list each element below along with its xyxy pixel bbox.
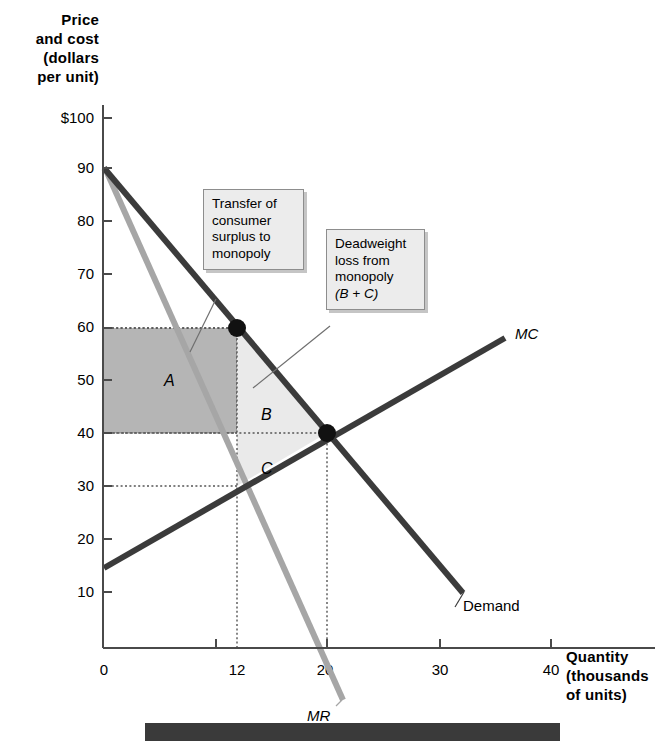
- plot-area: [0, 0, 663, 750]
- deadweight-callout: Deadweight loss from monopoly (B + C): [326, 229, 425, 310]
- demand-curve-label: Demand: [463, 597, 520, 614]
- transfer-callout-line-3: surplus to: [212, 229, 296, 246]
- monopoly-deadweight-loss-figure: Price and cost (dollars per unit) Quanti…: [0, 0, 663, 750]
- deadweight-callout-line-1: Deadweight: [335, 236, 417, 253]
- deadweight-callout-formula: (B + C): [335, 286, 378, 301]
- bottom-decorative-band: [145, 723, 560, 741]
- transfer-callout-line-2: consumer: [212, 213, 296, 230]
- x-axis-ticks: [216, 639, 551, 648]
- region-label-c: C: [261, 460, 273, 478]
- mr-label-leader: [336, 700, 342, 706]
- transfer-callout: Transfer of consumer surplus to monopoly: [203, 189, 304, 270]
- transfer-callout-line-1: Transfer of: [212, 196, 296, 213]
- deadweight-callout-line-3: monopoly: [335, 269, 417, 286]
- region-c-shape: [237, 433, 327, 486]
- deadweight-callout-line-2: loss from: [335, 253, 417, 270]
- mr-curve-label: MR: [307, 707, 330, 724]
- mc-curve-label: MC: [515, 325, 538, 342]
- monopoly-outcome-point: [228, 319, 246, 337]
- region-label-a: A: [164, 372, 175, 390]
- transfer-callout-line-4: monopoly: [212, 246, 296, 263]
- efficient-outcome-point: [318, 424, 336, 442]
- region-label-b: B: [261, 406, 272, 424]
